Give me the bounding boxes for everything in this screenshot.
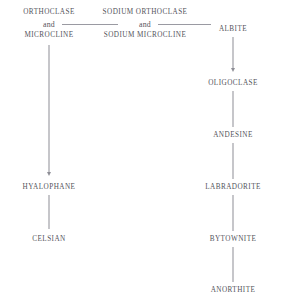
node-label-bytownite: BYTOWNITE (210, 234, 257, 245)
connector-andesine-to-labradorite (233, 143, 234, 179)
connector-sodium-orthoclase-to-albite (158, 24, 211, 25)
connector-orthoclase-to-sodium-orthoclase (62, 24, 118, 25)
connector-hyalophane-to-celsian (49, 195, 50, 229)
node-label-andesine: ANDESINE (213, 130, 253, 141)
arrowhead-oligoclase-icon (231, 68, 235, 72)
mineral-series-diagram: ORTHOCLASE and MICROCLINE SODIUM ORTHOCL… (0, 0, 288, 305)
node-label-albite: ALBITE (219, 24, 247, 35)
node-label-sodium-microcline: SODIUM MICROCLINE (103, 30, 188, 42)
connector-microcline-to-hyalophane (49, 45, 50, 174)
node-label-microcline: MICROCLINE (23, 30, 75, 42)
connector-oligoclase-to-andesine (233, 91, 234, 127)
node-label-labradorite: LABRADORITE (205, 182, 261, 193)
arrowhead-hyalophane-icon (47, 172, 51, 176)
node-label-celsian: CELSIAN (32, 234, 66, 245)
node-label-hyalophane: HYALOPHANE (23, 182, 76, 193)
node-label-anorthite: ANORTHITE (211, 285, 256, 296)
connector-labradorite-to-bytownite (233, 195, 234, 231)
connector-albite-to-oligoclase (233, 37, 234, 70)
node-label-oligoclase: OLIGOCLASE (208, 78, 258, 89)
node-label-orthoclase: ORTHOCLASE (23, 7, 75, 19)
node-label-sodium-orthoclase: SODIUM ORTHOCLASE (103, 7, 188, 19)
connector-bytownite-to-anorthite (233, 247, 234, 282)
